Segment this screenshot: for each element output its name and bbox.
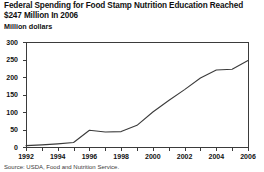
series-line-layer <box>0 0 264 172</box>
source-note: Source: USDA, Food and Nutrition Service… <box>4 164 260 171</box>
chart-figure: Federal Spending for Food Stamp Nutritio… <box>0 0 264 172</box>
series-line <box>26 61 248 146</box>
